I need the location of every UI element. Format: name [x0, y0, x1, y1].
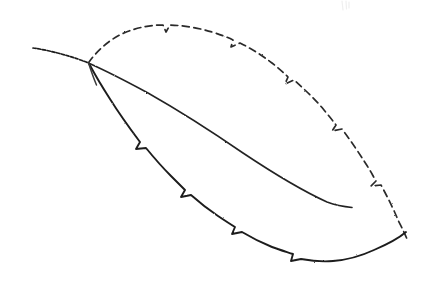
sketch-canvas: [0, 0, 426, 294]
leaf-drawing: [0, 0, 426, 294]
paper-background: [0, 0, 426, 294]
